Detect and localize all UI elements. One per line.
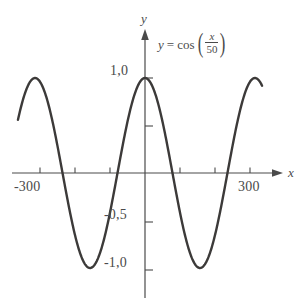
y-tick-label-1: 1,0 [110,64,128,78]
x-axis-label: x [288,166,294,179]
equation-function: cos [177,37,194,53]
y-tick-label-minus0point5: -0,5 [104,208,127,222]
equation-close-paren: ) [220,30,226,57]
x-tick-label-minus300: -300 [14,180,40,194]
cosine-plot [0,0,304,307]
x-axis-arrowhead [272,169,283,177]
equation-equals: = [167,37,174,53]
figure-container: y x -300 300 1,0 -0,5 -1,0 y = cos ( x 5… [0,0,304,307]
fraction-denominator: 50 [205,43,218,56]
x-tick-label-300: 300 [238,180,260,194]
y-axis-arrowhead [141,29,149,40]
equation-lhs: y [158,37,164,53]
y-axis-label: y [141,12,147,25]
equation-annotation: y = cos ( x 50 ) [158,31,227,58]
equation-open-paren: ( [198,30,204,57]
fraction-numerator: x [208,31,217,43]
equation-fraction: x 50 [205,31,218,56]
y-tick-label-minus1: -1,0 [104,256,127,270]
